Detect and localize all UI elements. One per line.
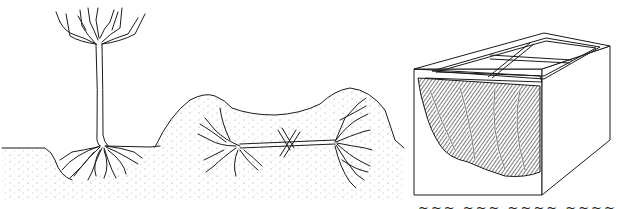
caption-fragment-text: ~~~ ~~~ ~~~~ ~~~~ [418, 201, 617, 209]
standard-tree-figure [2, 8, 200, 200]
illustration-canvas: ~~~ ~~~ ~~~~ ~~~~ [0, 0, 618, 209]
line-drawing [0, 0, 618, 209]
caption-fragment: ~~~ ~~~ ~~~~ ~~~~ [418, 197, 618, 209]
cold-frame-figure [414, 33, 610, 195]
